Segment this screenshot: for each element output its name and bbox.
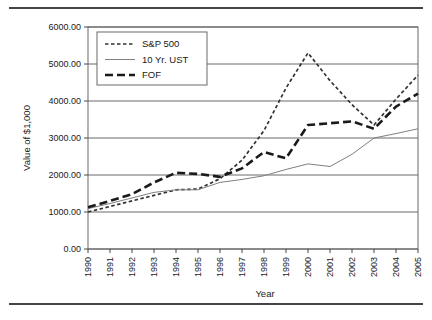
x-tick-label: 2003 <box>369 257 379 277</box>
x-tick-label: 1994 <box>171 257 181 277</box>
x-tick-label: 1998 <box>259 257 269 277</box>
x-tick-label: 1990 <box>83 257 93 277</box>
y-tick-label: 5000.00 <box>48 59 81 69</box>
x-tick-label: 2000 <box>303 257 313 277</box>
legend-label-3: FOF <box>142 69 161 80</box>
y-tick-label: 4000.00 <box>48 96 81 106</box>
y-tick-label: 2000.00 <box>48 170 81 180</box>
x-tick-label: 1992 <box>127 257 137 277</box>
x-tick-label: 2004 <box>391 257 401 277</box>
x-tick-label: 1991 <box>105 257 115 277</box>
x-tick-label: 1995 <box>193 257 203 277</box>
x-tick-label: 1997 <box>237 257 247 277</box>
y-tick-label: 3000.00 <box>48 133 81 143</box>
y-axis-title: Value of $1,000 <box>21 105 32 171</box>
x-tick-label: 1999 <box>281 257 291 277</box>
legend-label-2: 10 Yr. UST <box>142 54 188 65</box>
y-tick-label: 1000.00 <box>48 207 81 217</box>
x-tick-label: 1993 <box>149 257 159 277</box>
x-tick-label: 2002 <box>347 257 357 277</box>
x-axis-title: Year <box>255 288 274 299</box>
chart-figure: 0.001000.002000.003000.004000.005000.006… <box>0 0 432 320</box>
x-tick-label: 2001 <box>325 257 335 277</box>
x-tick-label: 1996 <box>215 257 225 277</box>
y-tick-label: 0.00 <box>63 244 81 254</box>
line-chart: 0.001000.002000.003000.004000.005000.006… <box>0 0 432 320</box>
legend-label-1: S&P 500 <box>142 38 179 49</box>
y-tick-label: 6000.00 <box>48 22 81 32</box>
x-tick-label: 2005 <box>413 257 423 277</box>
